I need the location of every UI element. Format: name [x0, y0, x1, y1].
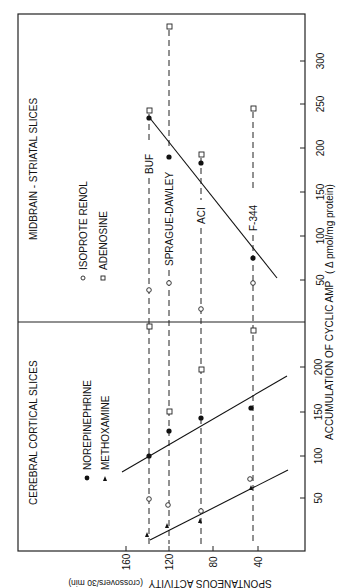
plot-frame [18, 14, 305, 551]
svg-text:100: 100 [313, 447, 324, 464]
camp-axis-label: ACCUMULATION OF CYCLIC AMP ( Δ pmol/mg p… [324, 184, 335, 440]
svg-text:ACI: ACI [196, 207, 207, 224]
legend-bottom: NOREPINEPHRINE METHOXAMINE [82, 380, 111, 481]
activity-tick-labels: 160 120 80 40 [121, 553, 264, 570]
activity-axis-label: SPONTANEOUS ACTIVITY (crossovers/30 min) [68, 578, 272, 588]
svg-text:200: 200 [315, 139, 326, 156]
svg-text:ADENOSINE: ADENOSINE [98, 211, 109, 270]
strain-dashed-lines [149, 30, 253, 544]
svg-text:150: 150 [313, 403, 324, 420]
svg-text:80: 80 [208, 556, 219, 568]
svg-text:NOREPINEPHRINE: NOREPINEPHRINE [82, 380, 93, 470]
svg-text:50: 50 [313, 492, 324, 504]
svg-text:BUF: BUF [144, 154, 155, 174]
svg-text:160: 160 [121, 553, 132, 570]
svg-text:250: 250 [315, 95, 326, 112]
svg-text:F-344: F-344 [248, 204, 259, 231]
open-circle-icon [81, 276, 85, 280]
rotated-chart: 50 100 150 200 250 300 50 100 150 200 AC… [0, 0, 344, 588]
svg-text:METHOXAMINE: METHOXAMINE [100, 395, 111, 470]
svg-text:40: 40 [253, 556, 264, 568]
svg-text:SPRAGUE-DAWLEY: SPRAGUE-DAWLEY [164, 172, 175, 266]
panel-title-cortical: CEREBRAL CORTICAL SLICES [28, 360, 39, 505]
filled-circle-icon [85, 476, 90, 481]
svg-text:300: 300 [315, 52, 326, 69]
svg-text:ISOPROTE RENOL: ISOPROTE RENOL [78, 181, 89, 270]
svg-text:200: 200 [313, 358, 324, 375]
svg-text:120: 120 [164, 553, 175, 570]
activity-axis-ticks [126, 546, 258, 551]
panel-title-midbrain: MIDBRAIN - STRIATAL SLICES [28, 98, 39, 240]
filled-triangle-icon [103, 476, 107, 481]
open-square-icon [101, 276, 105, 280]
legend-top: ISOPROTE RENOL ADENOSINE [78, 181, 109, 280]
camp-axis-ticks [300, 61, 305, 498]
